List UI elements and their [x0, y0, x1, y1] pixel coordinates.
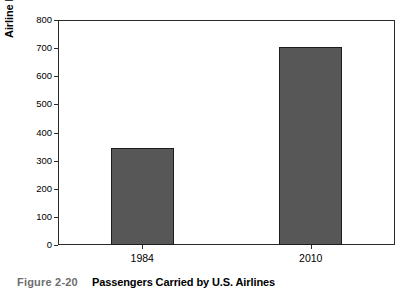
x-axis-tick-mark [311, 245, 312, 249]
y-axis-tick-label: 200 [36, 182, 52, 195]
y-axis-tick-label: 100 [36, 210, 52, 223]
bar-2010 [279, 47, 342, 245]
y-axis-tick-label: 300 [36, 154, 52, 167]
y-axis-tick: 500 [0, 104, 58, 105]
bar-1984 [111, 148, 174, 245]
y-axis-tick: 300 [0, 161, 58, 162]
y-axis-tick-label: 400 [36, 126, 52, 139]
y-axis-tick-label: 0 [47, 238, 52, 251]
y-axis-tick: 200 [0, 189, 58, 190]
y-axis-tick-mark [54, 104, 58, 105]
x-axis-tick-mark [142, 245, 143, 249]
y-axis-tick-mark [54, 133, 58, 134]
y-axis-tick: 0 [0, 245, 58, 246]
y-axis-tick-mark [54, 76, 58, 77]
y-axis-tick-mark [54, 20, 58, 21]
x-axis-tick-label: 2010 [271, 251, 351, 265]
y-axis-tick-mark [54, 48, 58, 49]
y-axis-tick-label: 600 [36, 69, 52, 82]
y-axis-tick: 400 [0, 133, 58, 134]
y-axis-tick-label: 500 [36, 97, 52, 110]
y-axis-tick: 600 [0, 76, 58, 77]
y-axis-tick-mark [54, 245, 58, 246]
y-axis-tick: 800 [0, 20, 58, 21]
y-axis-tick-label: 700 [36, 41, 52, 54]
plot-inner [59, 21, 394, 244]
y-axis-tick-mark [54, 161, 58, 162]
caption-figure-number: Figure 2-20 [17, 276, 78, 288]
y-axis-tick: 100 [0, 217, 58, 218]
y-axis-tick-mark [54, 217, 58, 218]
y-axis-tick: 700 [0, 48, 58, 49]
y-axis-tick-mark [54, 189, 58, 190]
x-axis-tick-label: 1984 [102, 251, 182, 265]
figure-bar-chart: Airline Passengers Carried (millions) 80… [0, 0, 409, 303]
figure-caption: Figure 2-20 Passengers Carried by U.S. A… [17, 274, 275, 290]
y-axis-tick-label: 800 [36, 13, 52, 26]
caption-title: Passengers Carried by U.S. Airlines [92, 276, 275, 288]
plot-area [58, 20, 395, 245]
